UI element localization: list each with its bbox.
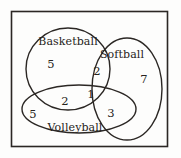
venn-diagram-canvas — [0, 0, 181, 158]
set-circle-basketball — [26, 28, 110, 110]
universal-set-rectangle — [12, 12, 168, 147]
venn-diagram-figure: Basketball Softball Volleyball 5 7 5 2 2… — [0, 0, 181, 158]
set-circle-softball — [92, 38, 162, 140]
